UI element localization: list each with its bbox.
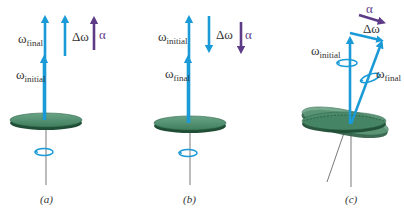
label-delta-omega: Δω [72, 30, 89, 43]
subscript: initial [25, 74, 46, 84]
subscript: final [174, 73, 191, 83]
omega-final-arrow [351, 44, 381, 124]
subscript: initial [167, 36, 188, 46]
label-omega-final: ωfinal [376, 67, 401, 83]
caption-b: (b) [183, 193, 196, 205]
rotation-direction-icon [34, 149, 53, 156]
subscript: initial [320, 50, 341, 60]
label-omega-initial: ωinitial [311, 44, 341, 60]
label-omega-final: ωfinal [165, 67, 190, 83]
label-alpha: α [245, 28, 252, 41]
label-omega-initial: ωinitial [158, 30, 188, 46]
rotation-axis-final [327, 130, 345, 182]
label-alpha: α [99, 28, 106, 41]
subscript: final [27, 38, 44, 48]
disk [302, 112, 386, 133]
label-delta-omega: Δω [363, 22, 380, 35]
label-omega-initial: ωinitial [16, 68, 46, 84]
omega-symbol: ω [16, 67, 25, 82]
omega-symbol: ω [18, 31, 27, 46]
label-omega-final: ωfinal [18, 32, 43, 48]
subscript: final [385, 73, 402, 83]
omega-symbol: ω [158, 29, 167, 44]
panel-c [299, 15, 390, 187]
angular-velocity-figure [0, 0, 404, 215]
caption-c: (c) [345, 193, 357, 205]
omega-symbol: ω [165, 66, 174, 81]
label-delta-omega: Δω [216, 28, 233, 41]
omega-symbol: ω [311, 43, 320, 58]
rotation-direction-icon [178, 150, 197, 157]
omega-symbol: ω [376, 66, 385, 81]
label-alpha: α [366, 2, 373, 15]
caption-a: (a) [40, 193, 53, 205]
rotation-direction-icon-initial [336, 60, 357, 67]
